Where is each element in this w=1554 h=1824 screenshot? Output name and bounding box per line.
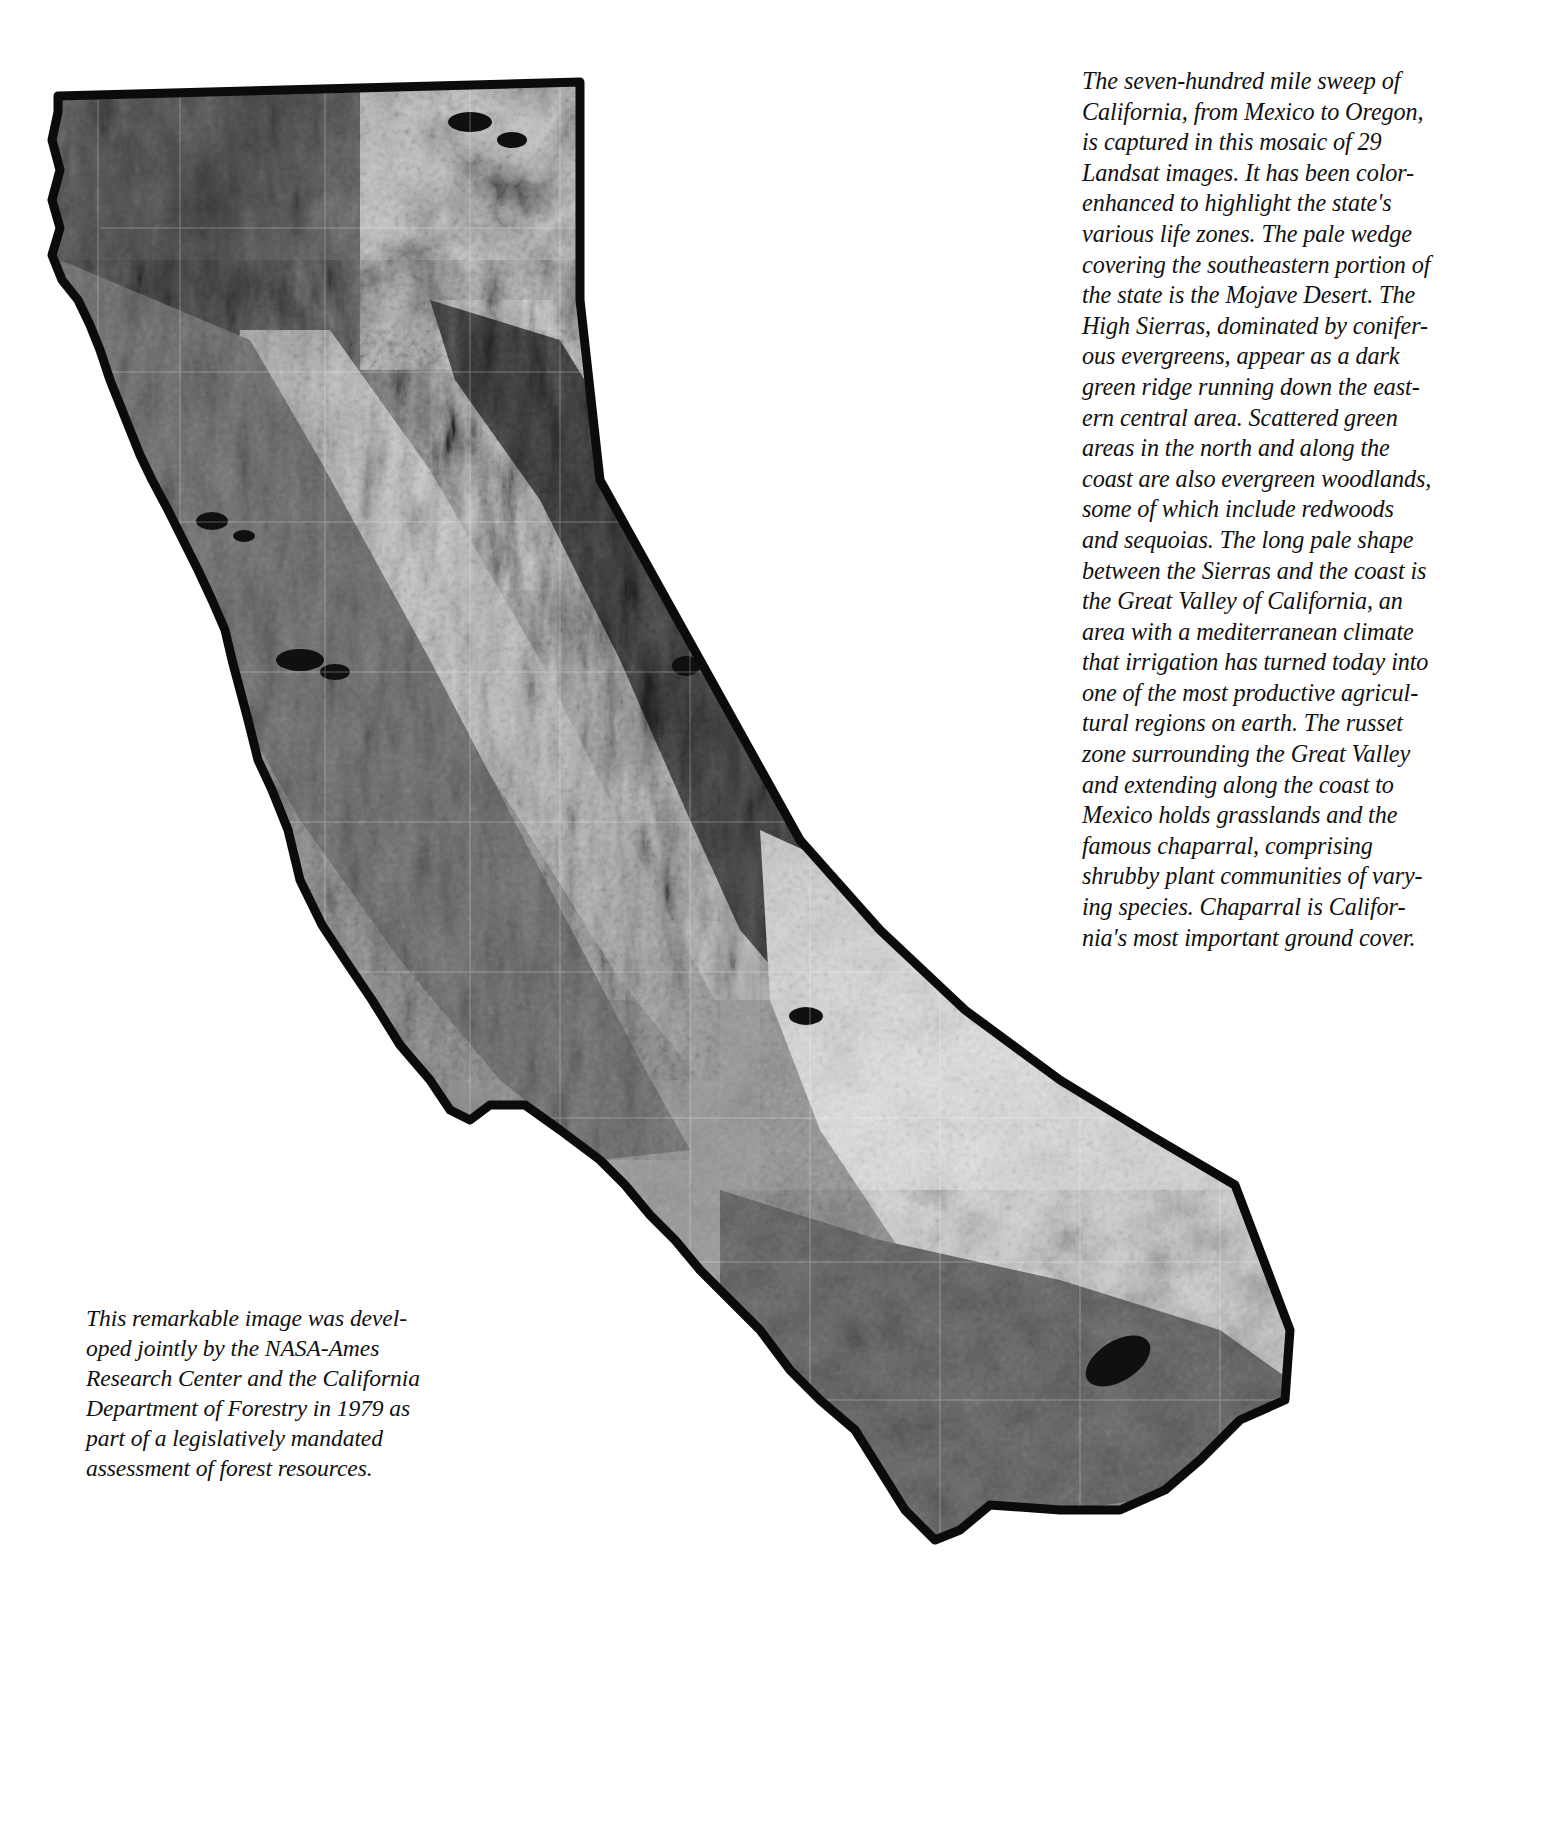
caption-line: various life zones. The pale wedge bbox=[1082, 219, 1392, 250]
caption-line: areas in the north and along the bbox=[1082, 433, 1392, 464]
caption-line: High Sierras, dominated by conifer- bbox=[1082, 311, 1392, 342]
caption-line: green ridge running down the east- bbox=[1082, 372, 1392, 403]
caption-line: the state is the Mojave Desert. The bbox=[1082, 280, 1392, 311]
caption-line: The seven-hundred mile sweep of bbox=[1082, 66, 1392, 97]
page-root: The seven-hundred mile sweep ofCaliforni… bbox=[0, 0, 1554, 1824]
caption-line: This remarkable image was devel- bbox=[86, 1303, 438, 1333]
caption-line: some of which include redwoods bbox=[1082, 494, 1392, 525]
caption-line: California, from Mexico to Oregon, bbox=[1082, 97, 1392, 128]
caption-line: coast are also evergreen woodlands, bbox=[1082, 464, 1392, 495]
caption-line: is captured in this mosaic of 29 bbox=[1082, 127, 1392, 158]
caption-line: one of the most productive agricul- bbox=[1082, 678, 1392, 709]
caption-line: covering the southeastern portion of bbox=[1082, 250, 1392, 281]
caption-line: area with a mediterranean climate bbox=[1082, 617, 1392, 648]
caption-line: between the Sierras and the coast is bbox=[1082, 556, 1392, 587]
caption-line: Mexico holds grasslands and the bbox=[1082, 800, 1392, 831]
caption-line: and extending along the coast to bbox=[1082, 770, 1392, 801]
caption-line: tural regions on earth. The russet bbox=[1082, 708, 1392, 739]
caption-line: Department of Forestry in 1979 as bbox=[86, 1393, 438, 1423]
caption-line: famous chaparral, comprising bbox=[1082, 831, 1392, 862]
caption-line: ing species. Chaparral is Califor- bbox=[1082, 892, 1392, 923]
caption-line: Research Center and the California bbox=[86, 1363, 438, 1393]
caption-line: the Great Valley of California, an bbox=[1082, 586, 1392, 617]
caption-line: shrubby plant communities of vary- bbox=[1082, 861, 1392, 892]
caption-line: enhanced to highlight the state's bbox=[1082, 188, 1392, 219]
right-caption: The seven-hundred mile sweep ofCaliforni… bbox=[1082, 66, 1392, 953]
caption-line: ous evergreens, appear as a dark bbox=[1082, 341, 1392, 372]
caption-line: and sequoias. The long pale shape bbox=[1082, 525, 1392, 556]
caption-line: assessment of forest resources. bbox=[86, 1453, 438, 1483]
bottom-left-caption: This remarkable image was devel-oped joi… bbox=[86, 1303, 438, 1483]
caption-line: part of a legislatively mandated bbox=[86, 1423, 438, 1453]
caption-line: that irrigation has turned today into bbox=[1082, 647, 1392, 678]
caption-line: oped jointly by the NASA-Ames bbox=[86, 1333, 438, 1363]
caption-line: nia's most important ground cover. bbox=[1082, 923, 1392, 954]
caption-line: ern central area. Scattered green bbox=[1082, 403, 1392, 434]
caption-line: zone surrounding the Great Valley bbox=[1082, 739, 1392, 770]
caption-line: Landsat images. It has been color- bbox=[1082, 158, 1392, 189]
